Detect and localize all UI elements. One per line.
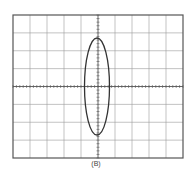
- figure-caption: (B): [0, 160, 192, 167]
- oscilloscope-screen: [0, 0, 192, 175]
